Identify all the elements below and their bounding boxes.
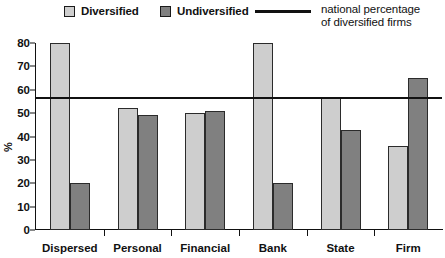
legend-label-national-percentage: national percentageof diversified firms: [321, 1, 420, 28]
chart-legend: Diversified Undiversified national perce…: [0, 0, 445, 36]
y-axis-tick-mark: [30, 66, 35, 67]
y-axis-tick-label: 30: [17, 154, 30, 166]
bar-state-undiversified: [341, 130, 361, 231]
legend-item-national-percentage: national percentageof diversified firms: [255, 1, 420, 28]
y-axis-tick-label: 50: [17, 107, 30, 119]
plot-area: % 01020304050607080 DispersedPersonalFin…: [0, 36, 445, 258]
y-axis-tick-label: 10: [17, 201, 30, 213]
y-axis-tick-mark: [30, 136, 35, 137]
bar-financial-undiversified: [205, 111, 225, 230]
y-axis-tick-mark: [30, 206, 35, 207]
x-axis-label-state: State: [326, 242, 354, 254]
x-axis-label-financial: Financial: [180, 242, 230, 254]
legend-label-line-2: of diversified firms: [321, 16, 420, 29]
legend-swatch-icon-diversified: [64, 6, 75, 17]
bar-firm-diversified: [388, 146, 408, 230]
y-axis-tick-mark: [30, 159, 35, 160]
bar-group: [388, 43, 428, 230]
legend-item-diversified: Diversified: [64, 5, 139, 17]
x-axis-tick-mark: [307, 230, 308, 236]
bars-container: [36, 43, 442, 230]
legend-label-undiversified: Undiversified: [177, 5, 249, 17]
y-axis-tick-label: 80: [17, 37, 30, 49]
bar-chart-figure: Diversified Undiversified national perce…: [0, 0, 445, 258]
y-axis-tick-mark: [30, 183, 35, 184]
x-axis-tick-mark: [171, 230, 172, 236]
y-axis-tick-label: 20: [17, 177, 30, 189]
y-axis-tick-label: 40: [17, 131, 30, 143]
bar-dispersed-diversified: [50, 43, 70, 230]
y-axis-tick-mark: [30, 113, 35, 114]
x-axis-label-bank: Bank: [259, 242, 287, 254]
legend-label-diversified: Diversified: [81, 5, 139, 17]
bar-group: [253, 43, 293, 230]
bar-group: [321, 43, 361, 230]
legend-item-undiversified: Undiversified: [160, 5, 249, 17]
bar-group: [50, 43, 90, 230]
bar-state-diversified: [321, 97, 341, 230]
y-axis-ticks: 01020304050607080: [0, 36, 30, 258]
legend-label-line-1: national percentage: [321, 3, 420, 15]
y-axis-tick-label: 70: [17, 60, 30, 72]
y-axis-tick-mark: [30, 43, 35, 44]
y-axis-tick-mark: [30, 89, 35, 90]
x-axis-label-firm: Firm: [396, 242, 421, 254]
y-axis-tick-mark: [30, 230, 35, 231]
bar-personal-undiversified: [138, 115, 158, 230]
bar-firm-undiversified: [408, 78, 428, 230]
legend-line-icon-national-percentage: [255, 10, 311, 13]
x-axis-label-personal: Personal: [113, 242, 162, 254]
x-axis-tick-mark: [104, 230, 105, 236]
bar-group: [185, 43, 225, 230]
bar-financial-diversified: [185, 113, 205, 230]
bar-dispersed-undiversified: [70, 183, 90, 230]
bar-bank-diversified: [253, 43, 273, 230]
bar-bank-undiversified: [273, 183, 293, 230]
legend-swatch-icon-undiversified: [160, 6, 171, 17]
x-axis-tick-mark: [374, 230, 375, 236]
bar-personal-diversified: [118, 108, 138, 230]
x-axis-labels: DispersedPersonalFinancialBankStateFirm: [36, 236, 442, 254]
x-axis-tick-mark: [239, 230, 240, 236]
bar-group: [118, 43, 158, 230]
reference-line-national-percentage: [36, 97, 442, 99]
y-axis-tick-label: 60: [17, 84, 30, 96]
x-axis-label-dispersed: Dispersed: [42, 242, 98, 254]
